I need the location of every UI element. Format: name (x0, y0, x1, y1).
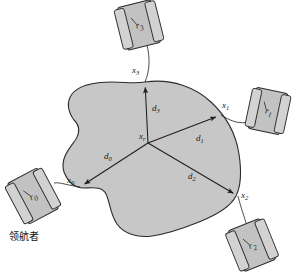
vertex-label-x0: x0 (67, 176, 74, 185)
diagram-svg (0, 0, 295, 277)
center-point-label: xr (139, 132, 146, 141)
vertex-label-x1: x1 (222, 101, 229, 110)
vertex-label-x3: x3 (132, 66, 139, 75)
figure-canvas: xr x0 x1 x2 x3 d0 d1 d2 d3 r0 r1 r2 r3 领… (0, 0, 295, 277)
distance-label-d1: d1 (196, 134, 204, 143)
distance-label-d3: d3 (152, 104, 160, 113)
vertex-label-x2: x2 (241, 191, 248, 200)
distance-label-d2: d2 (188, 172, 196, 181)
distance-label-d0: d0 (104, 152, 112, 161)
leader-caption: 领航者 (9, 228, 39, 243)
link-line-r3 (145, 45, 149, 82)
